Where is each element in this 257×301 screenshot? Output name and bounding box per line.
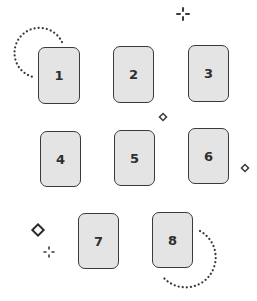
card-label: 2: [129, 67, 138, 82]
card-label: 6: [204, 149, 213, 164]
sparkle-icon: [44, 247, 54, 257]
card-label: 8: [168, 233, 177, 248]
diamond-icon: [159, 113, 166, 120]
card-6: 6: [188, 128, 229, 184]
card-7: 7: [78, 213, 119, 269]
card-label: 1: [54, 68, 63, 83]
card-label: 7: [94, 234, 103, 249]
sparkle-icon: [177, 8, 189, 20]
card-8: 8: [152, 212, 193, 268]
card-3: 3: [188, 45, 229, 102]
card-1: 1: [38, 47, 80, 104]
card-label: 3: [204, 66, 213, 81]
card-2: 2: [113, 46, 154, 103]
diamond-icon: [32, 224, 43, 235]
card-5: 5: [114, 130, 155, 186]
card-label: 4: [56, 152, 65, 167]
card-label: 5: [130, 151, 139, 166]
diamond-icon: [241, 164, 248, 171]
card-4: 4: [40, 131, 81, 187]
